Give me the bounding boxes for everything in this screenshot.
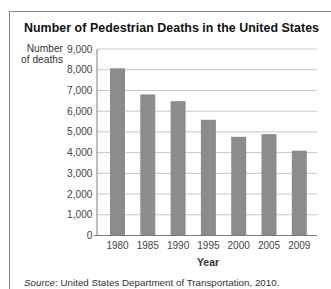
y-tick-label: 7,000 <box>67 85 93 96</box>
bar-2005 <box>262 134 277 235</box>
y-tick-label: 5,000 <box>67 126 93 137</box>
bar-2009 <box>292 151 307 236</box>
x-tick-label: 2009 <box>288 240 311 251</box>
bar-2000 <box>231 137 246 236</box>
x-tick-label: 1995 <box>197 240 220 251</box>
x-tick-label: 1985 <box>137 240 160 251</box>
bar-1990 <box>171 101 186 235</box>
x-tick-label: 1990 <box>167 240 190 251</box>
y-tick-label: 2,000 <box>67 189 93 200</box>
y-tick-label: 8,000 <box>67 64 93 75</box>
y-tick-label: 0 <box>87 230 93 241</box>
bar-1995 <box>201 120 216 236</box>
y-tick-label: 4,000 <box>67 147 93 158</box>
x-tick-label: 2000 <box>228 240 251 251</box>
bar-1985 <box>140 94 155 235</box>
source-text: : United States Department of Transporta… <box>55 277 279 288</box>
y-tick-label: 3,000 <box>67 168 93 179</box>
x-tick-label: 1980 <box>106 240 129 251</box>
y-tick-label: 6,000 <box>67 106 93 117</box>
source-label: Source <box>24 277 55 288</box>
x-tick-label: 2005 <box>258 240 281 251</box>
source-note: Source: United States Department of Tran… <box>24 277 279 288</box>
y-tick-label: 9,000 <box>67 44 93 55</box>
y-tick-label: 1,000 <box>67 209 93 220</box>
bar-1980 <box>110 68 125 235</box>
bar-chart: 01,0002,0003,0004,0005,0006,0007,0008,00… <box>0 0 331 289</box>
x-axis-title: Year <box>197 257 219 268</box>
